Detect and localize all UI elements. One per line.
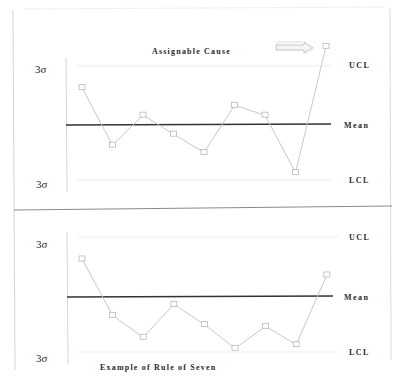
chart-title: Example of Rule of Seven (100, 363, 216, 372)
assignable-cause-chart: Assignable Cause 3σ 3σ UCLMeanLCL (35, 42, 370, 192)
data-point-3 (140, 334, 146, 339)
mean-line (67, 296, 333, 297)
data-point-7 (263, 323, 269, 328)
mean-line (66, 124, 331, 125)
data-point-9 (324, 272, 330, 277)
chart-divider (14, 206, 392, 210)
lcl-label: LCL (349, 348, 370, 357)
control-charts: Assignable Cause 3σ 3σ UCLMeanLCL Exampl… (0, 0, 401, 383)
data-point-8 (293, 342, 299, 347)
lcl-label: LCL (349, 176, 370, 185)
frame-left (13, 10, 15, 370)
data-point-1 (79, 256, 85, 261)
sigma-label-bottom: 3σ (36, 352, 48, 364)
data-point-6 (232, 345, 238, 350)
data-point-2 (110, 312, 116, 317)
data-point-3 (140, 112, 146, 117)
data-point-9 (323, 43, 329, 48)
data-point-2 (110, 142, 116, 147)
series-line (82, 259, 327, 348)
arrow-icon (276, 42, 313, 53)
data-point-4 (171, 131, 177, 136)
ucl-label: UCL (349, 233, 370, 242)
data-point-7 (262, 112, 268, 117)
data-point-1 (79, 85, 85, 90)
data-point-4 (171, 301, 177, 306)
data-point-5 (201, 150, 207, 155)
data-point-8 (293, 170, 299, 175)
mean-label: Mean (344, 293, 370, 302)
data-point-6 (232, 102, 238, 107)
ucl-label: UCL (349, 61, 370, 70)
sigma-label-top: 3σ (35, 63, 47, 75)
frame-top (24, 7, 385, 9)
rule-of-seven-chart: Example of Rule of Seven 3σ 3σ UCLMeanLC… (36, 232, 370, 372)
sigma-label-bottom: 3σ (36, 178, 48, 190)
y-axis (67, 232, 68, 365)
chart-title: Assignable Cause (152, 47, 231, 56)
sigma-label-top: 3σ (36, 238, 48, 250)
data-point-5 (201, 322, 207, 327)
mean-label: Mean (344, 121, 370, 130)
frame-right (390, 8, 391, 360)
